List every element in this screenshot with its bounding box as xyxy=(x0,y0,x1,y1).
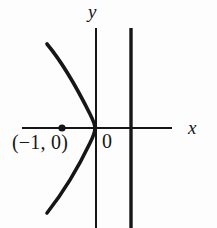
graph-figure: y x 0 (−1, 0) xyxy=(0,0,217,228)
x-axis-label: x xyxy=(188,118,196,137)
graph-canvas xyxy=(0,0,217,228)
point-coordinate-label: (−1, 0) xyxy=(12,132,68,152)
origin-label: 0 xyxy=(102,131,112,151)
y-axis-label: y xyxy=(88,2,96,21)
